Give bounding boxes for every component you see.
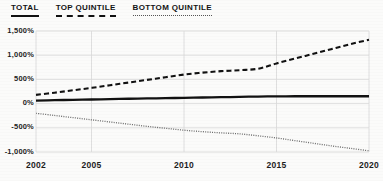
line-chart-svg: [0, 25, 383, 157]
legend-label-total: TOTAL: [11, 3, 39, 13]
legend-label-bottom-quintile: BOTTOM QUINTILE: [133, 3, 212, 13]
x-tick-2002: 2002: [26, 160, 46, 170]
legend-swatch-dotted-line: [133, 15, 212, 18]
series-line-total: [36, 96, 369, 100]
x-axis: 20022005201020152020: [0, 160, 383, 174]
x-tick-2015: 2015: [266, 160, 286, 170]
legend-swatch-dashed-line: [56, 15, 116, 19]
gridlines: [36, 31, 369, 152]
series-line-top-quintile: [36, 40, 369, 95]
x-tick-2010: 2010: [174, 160, 194, 170]
chart-plot-area: [0, 25, 383, 157]
legend-item-bottom-quintile: BOTTOM QUINTILE: [133, 3, 212, 18]
legend-item-total: TOTAL: [11, 3, 39, 19]
chart-legend: TOTAL TOP QUINTILE BOTTOM QUINTILE: [11, 3, 212, 19]
x-tick-2005: 2005: [81, 160, 101, 170]
legend-swatch-solid-line: [11, 15, 39, 19]
data-series-group: [36, 40, 369, 151]
series-line-bottom-quintile: [36, 113, 369, 151]
legend-label-top-quintile: TOP QUINTILE: [56, 3, 116, 13]
x-tick-2020: 2020: [359, 160, 379, 170]
legend-item-top-quintile: TOP QUINTILE: [56, 3, 116, 19]
